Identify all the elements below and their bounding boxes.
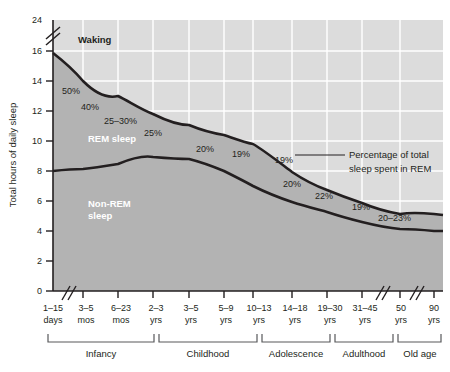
rem-pct-label: 19%	[232, 149, 250, 159]
x-tick-bottom: yrs	[428, 315, 440, 325]
life-stage-label-infancy: Infancy	[86, 348, 117, 359]
x-tick-top: 6–23	[111, 303, 131, 313]
y-tick-12: 12	[32, 106, 42, 116]
life-stage-label-adulthood: Adulthood	[343, 348, 386, 359]
x-tick-bottom: yrs	[289, 315, 301, 325]
x-tick-bottom: yrs	[253, 315, 265, 325]
y-tick-4: 4	[37, 226, 42, 236]
x-tick-bottom: mos	[77, 315, 95, 325]
x-tick-bottom: yrs	[220, 315, 232, 325]
sleep-chart-figure: 24 16 14 12 10 8 6 4 2 0 Total hours of …	[0, 0, 450, 372]
bracket-infancy	[48, 334, 154, 342]
rem-pct-label: 20–23%	[378, 213, 411, 223]
y-tick-0: 0	[37, 286, 42, 296]
life-stage-labels: Infancy Childhood Adolescence Adulthood …	[86, 348, 437, 359]
rem-pct-label: 19%	[275, 155, 293, 165]
bracket-adolescence	[262, 334, 330, 342]
annotation-line2: sleep spent in REM	[349, 163, 431, 174]
life-stage-label-old-age: Old age	[403, 348, 436, 359]
x-tick-top: 3–5	[183, 303, 198, 313]
x-axis-ticks	[83, 291, 434, 298]
annotation-line1: Percentage of total	[349, 149, 429, 160]
y-tick-2: 2	[37, 256, 42, 266]
x-tick-bottom: yrs	[185, 315, 197, 325]
y-tick-10: 10	[32, 136, 42, 146]
rem-pct-label: 50%	[62, 86, 80, 96]
bracket-adulthood	[335, 334, 393, 342]
bracket-old-age	[398, 334, 441, 342]
y-axis-title: Total hours of daily sleep	[7, 103, 18, 208]
x-tick-bottom: days	[43, 315, 63, 325]
x-tick-bottom: yrs	[395, 315, 407, 325]
rem-pct-label: 20%	[196, 144, 214, 154]
x-tick-top: 50	[396, 303, 406, 313]
band-label-non-rem-line1: Non-REM	[88, 198, 131, 209]
y-tick-16: 16	[32, 46, 42, 56]
rem-pct-label: 25%	[144, 128, 162, 138]
y-axis-ticks	[46, 51, 53, 291]
chart-svg: 24 16 14 12 10 8 6 4 2 0 Total hours of …	[0, 0, 450, 372]
x-tick-bottom: yrs	[359, 315, 371, 325]
band-label-non-rem-line2: sleep	[88, 210, 112, 221]
life-stage-label-childhood: Childhood	[187, 348, 230, 359]
life-stage-brackets	[48, 334, 441, 342]
x-tick-top: 5–9	[218, 303, 233, 313]
y-tick-24: 24	[32, 15, 42, 25]
rem-pct-label: 25–30%	[104, 116, 137, 126]
x-tick-top: 3–5	[78, 303, 93, 313]
x-tick-top: 19–30	[317, 303, 342, 313]
x-tick-bottom: yrs	[324, 315, 336, 325]
x-tick-top: 14–18	[282, 303, 307, 313]
x-tick-top: 31–45	[352, 303, 377, 313]
x-tick-top: 90	[429, 303, 439, 313]
rem-pct-label: 22%	[315, 191, 333, 201]
band-label-waking: Waking	[78, 34, 112, 45]
bracket-childhood	[159, 334, 257, 342]
life-stage-label-adolescence: Adolescence	[269, 348, 323, 359]
x-tick-top: 1–15	[43, 303, 63, 313]
x-tick-bottom: mos	[112, 315, 130, 325]
x-tick-bottom: yrs	[150, 315, 162, 325]
band-label-rem-sleep: REM sleep	[88, 133, 136, 144]
x-tick-top: 2–3	[148, 303, 163, 313]
y-tick-6: 6	[37, 196, 42, 206]
x-tick-top: 10–13	[246, 303, 271, 313]
y-tick-14: 14	[32, 76, 42, 86]
rem-pct-label: 40%	[81, 102, 99, 112]
y-tick-8: 8	[37, 166, 42, 176]
rem-pct-label: 20%	[283, 179, 301, 189]
x-tick-labels: 1–15 days 3–5 mos 6–23 mos 2–3 yrs 3–5 y…	[43, 303, 441, 325]
rem-pct-label: 19%	[352, 202, 370, 212]
